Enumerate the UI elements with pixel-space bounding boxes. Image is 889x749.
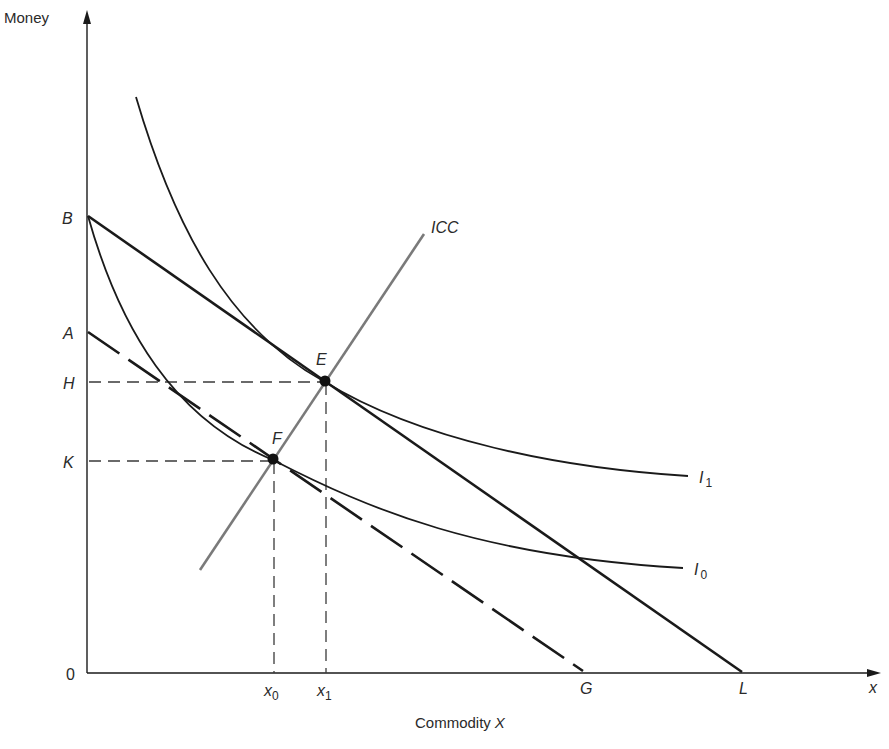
axes [83, 10, 881, 677]
x1-sub: 1 [325, 689, 332, 703]
budget-line-bl [88, 216, 742, 672]
i1-base: I [699, 469, 704, 486]
label-b: B [62, 210, 73, 227]
label-k: K [63, 454, 75, 471]
label-f: F [272, 430, 283, 447]
i0-sub: 0 [700, 568, 707, 582]
label-x0: x0 [263, 682, 279, 703]
label-icc: ICC [431, 219, 459, 236]
icc-diagram: Money 0 x CommodityX B A H K x0 x1 G L E… [0, 0, 889, 749]
origin-label: 0 [66, 666, 75, 683]
x-axis-label-var: X [494, 714, 506, 731]
i1-sub: 1 [705, 476, 712, 490]
x-axis-arrow-icon [867, 669, 881, 677]
label-l: L [739, 680, 748, 697]
x-axis-label-text: Commodity [415, 714, 491, 731]
label-e: E [316, 351, 327, 368]
income-consumption-curve [200, 234, 424, 570]
x-axis-label: CommodityX [415, 714, 506, 731]
budget-line-ag [88, 332, 583, 671]
i0-base: I [694, 561, 699, 578]
y-axis-label: Money [4, 9, 50, 26]
y-axis-arrow-icon [83, 10, 91, 24]
label-x1: x1 [316, 682, 332, 703]
label-a: A [62, 325, 74, 342]
x0-sub: 0 [272, 689, 279, 703]
indifference-curve-i1 [136, 97, 688, 476]
indifference-curve-i0 [88, 216, 683, 568]
label-h: H [63, 375, 75, 392]
label-g: G [580, 680, 592, 697]
point-f [268, 454, 279, 465]
point-e [320, 376, 331, 387]
label-i1: I1 [699, 469, 712, 490]
label-i0: I0 [694, 561, 707, 582]
x-axis-end-label: x [868, 679, 878, 696]
guide-lines [89, 382, 326, 673]
